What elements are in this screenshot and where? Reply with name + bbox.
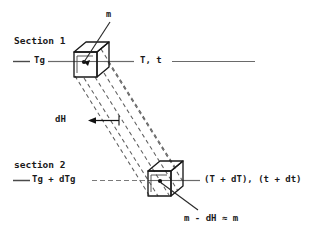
streamline-6 [101, 49, 175, 167]
streamline-1 [75, 76, 149, 195]
label-section-1-heading: Section 1 [14, 36, 65, 46]
flow-streamlines [75, 49, 182, 196]
dH-arrow-head [88, 117, 96, 123]
label-fluid-temp-1: T, t [140, 56, 162, 65]
cube-1-inner-marks [77, 56, 93, 73]
label-gas-temp-1: Tg [34, 56, 45, 65]
label-fluid-temp-2: (T + dT), (t + dt) [204, 175, 302, 184]
label-gas-temp-2: Tg + dTg [32, 175, 75, 184]
cube-section-1 [74, 42, 109, 77]
label-enthalpy-change: dH [55, 115, 66, 124]
streamline-2 [84, 78, 158, 196]
thermodynamic-section-diagram: m Section 1 Tg T, t dH section 2 Tg + dT… [0, 0, 332, 243]
streamline-3 [95, 77, 169, 195]
label-mass-top: m [106, 10, 111, 19]
cube-section-2 [148, 161, 183, 196]
label-section-2-heading: section 2 [14, 160, 65, 170]
streamline-4 [104, 73, 178, 191]
cube-1-right-face [97, 42, 109, 77]
label-mass-bottom: m - dH ≈ m [184, 214, 238, 223]
dH-arrow [88, 116, 119, 126]
